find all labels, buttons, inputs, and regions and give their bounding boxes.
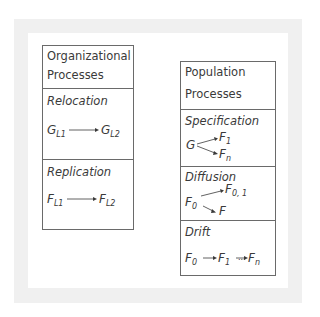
organizational-header: Organizational Processes bbox=[43, 46, 133, 88]
specification-section: Specification G F1 Fn bbox=[181, 109, 275, 166]
organizational-processes-panel: Organizational Processes Relocation GL1 … bbox=[42, 45, 134, 230]
replication-to: FL2 bbox=[99, 192, 115, 208]
specification-target-1: F1 bbox=[219, 130, 231, 146]
diffusion-section: Diffusion F0 F0, 1 F bbox=[181, 166, 275, 220]
population-processes-panel: Population Processes Specification G F1 … bbox=[180, 61, 276, 276]
diffusion-target-1: F0, 1 bbox=[225, 182, 247, 198]
drift-ellipsis: ... bbox=[238, 253, 246, 262]
arrow-right-icon bbox=[43, 160, 135, 230]
replication-section: Replication FL1 FL2 bbox=[43, 159, 133, 229]
relocation-to: GL2 bbox=[101, 123, 120, 139]
relocation-section: Relocation GL1 GL2 bbox=[43, 88, 133, 159]
arrow-right-icon bbox=[43, 89, 135, 160]
diffusion-target-2: F bbox=[219, 204, 226, 218]
population-header: Population Processes bbox=[181, 62, 275, 109]
drift-section: Drift F0 F1 ... Fn bbox=[181, 220, 275, 275]
header-line-1: Population bbox=[185, 65, 245, 79]
header-line-2: Processes bbox=[185, 87, 242, 101]
drift-chain-n: Fn bbox=[248, 251, 260, 267]
drift-chain-1: F1 bbox=[218, 251, 230, 267]
chain-arrows-icon bbox=[181, 221, 277, 276]
header-line-1: Organizational bbox=[47, 47, 131, 66]
header-line-2: Processes bbox=[47, 66, 104, 85]
specification-target-n: Fn bbox=[219, 147, 231, 163]
